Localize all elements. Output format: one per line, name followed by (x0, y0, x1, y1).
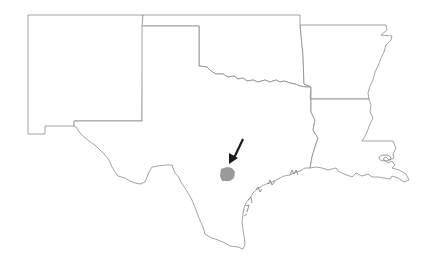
state-arkansas (300, 25, 392, 99)
highlighted-county (220, 167, 235, 181)
locator-map (0, 0, 427, 268)
state-louisiana (310, 99, 409, 182)
state-new-mexico (28, 15, 143, 134)
